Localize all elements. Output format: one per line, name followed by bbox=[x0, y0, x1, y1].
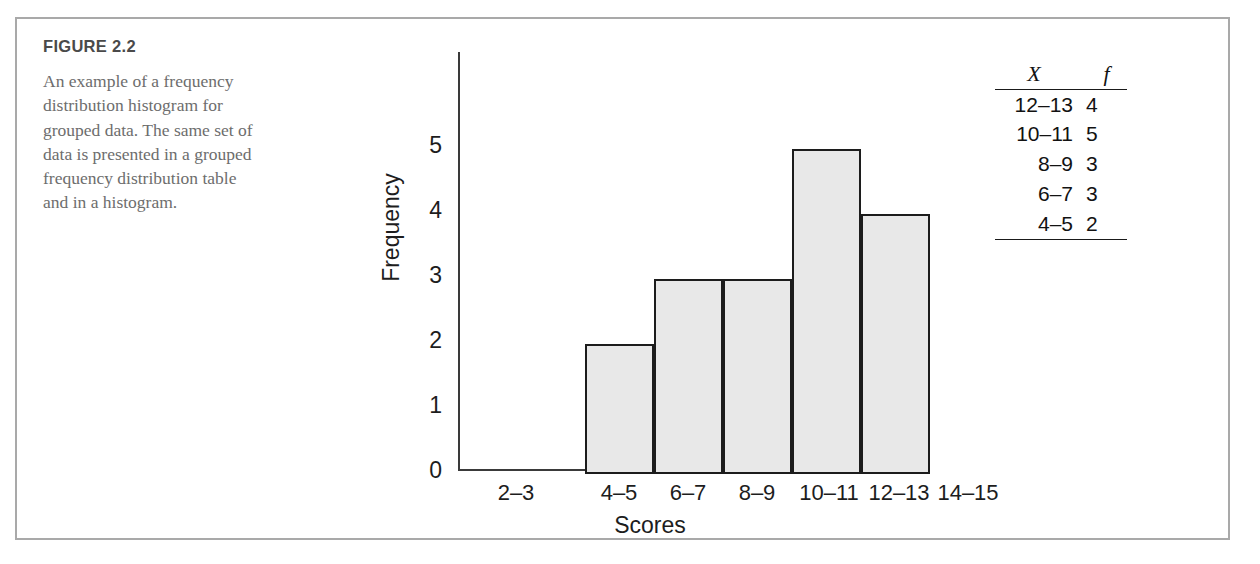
y-tick-label-5: 5 bbox=[402, 134, 442, 157]
table-cell-x: 6–7 bbox=[995, 180, 1082, 210]
x-tick-label-0: 2–3 bbox=[498, 480, 535, 506]
table-cell-x: 8–9 bbox=[995, 150, 1082, 180]
x-tick-label-1: 4–5 bbox=[601, 480, 638, 506]
figure-caption: An example of a frequency distribution h… bbox=[43, 69, 258, 215]
x-tick-label-3: 8–9 bbox=[739, 480, 776, 506]
table-cell-x: 12–13 bbox=[995, 90, 1082, 120]
table-row: 8–9 3 bbox=[995, 150, 1127, 180]
histogram-chart: Frequency 0 1 2 3 4 5 2–3 4–5 6–7 8–9 10… bbox=[362, 39, 942, 539]
y-tick-label-0: 0 bbox=[402, 459, 442, 482]
table-header-row: X f bbox=[995, 61, 1127, 90]
frequency-distribution-table: X f 12–13 4 10–11 5 8–9 3 6–7 bbox=[995, 61, 1143, 240]
y-tick-label-1: 1 bbox=[402, 394, 442, 417]
x-tick-label-4: 10–11 bbox=[799, 480, 859, 506]
y-tick-label-2: 2 bbox=[402, 329, 442, 352]
table-cell-f: 5 bbox=[1082, 120, 1127, 150]
table-row: 12–13 4 bbox=[995, 90, 1127, 120]
x-axis-title: Scores bbox=[458, 512, 842, 539]
caption-block: FIGURE 2.2 An example of a frequency dis… bbox=[43, 37, 258, 215]
table-header-f: f bbox=[1082, 61, 1127, 90]
x-tick-label-5: 12–13 bbox=[868, 480, 929, 506]
histogram-bar bbox=[654, 279, 723, 474]
table-row: 10–11 5 bbox=[995, 120, 1127, 150]
y-axis-line bbox=[458, 52, 460, 470]
table-header-x: X bbox=[995, 61, 1082, 90]
plot-area: 0 1 2 3 4 5 2–3 4–5 6–7 8–9 10–11 12–13 … bbox=[458, 52, 842, 476]
figure-number: FIGURE 2.2 bbox=[43, 37, 258, 56]
table-cell-f: 4 bbox=[1082, 90, 1127, 120]
x-tick-label-2: 6–7 bbox=[670, 480, 707, 506]
table-cell-x: 10–11 bbox=[995, 120, 1082, 150]
table-cell-f: 2 bbox=[1082, 210, 1127, 240]
y-axis-title: Frequency bbox=[378, 138, 405, 318]
table-cell-x: 4–5 bbox=[995, 210, 1082, 240]
y-tick-label-4: 4 bbox=[402, 199, 442, 222]
table-cell-f: 3 bbox=[1082, 180, 1127, 210]
table-row: 6–7 3 bbox=[995, 180, 1127, 210]
figure-frame: FIGURE 2.2 An example of a frequency dis… bbox=[15, 17, 1230, 540]
y-tick-label-3: 3 bbox=[402, 264, 442, 287]
x-tick-label-6: 14–15 bbox=[937, 480, 998, 506]
histogram-bar bbox=[861, 214, 930, 474]
histogram-bar bbox=[585, 344, 654, 474]
table-cell-f: 3 bbox=[1082, 150, 1127, 180]
histogram-bar bbox=[723, 279, 792, 474]
table-row: 4–5 2 bbox=[995, 210, 1127, 240]
histogram-bar bbox=[792, 149, 861, 474]
